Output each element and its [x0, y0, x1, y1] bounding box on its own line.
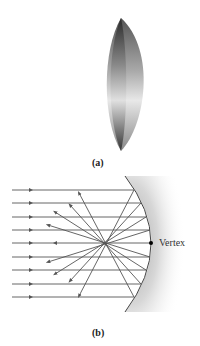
vertex-dot: [149, 241, 153, 245]
vertex-label: Vertex: [159, 237, 185, 248]
incoming-rays: [12, 190, 151, 297]
mirror-segment-illustration: [107, 18, 144, 151]
incoming-ray-arrows: [29, 188, 57, 299]
reflected-rays: [48, 190, 150, 297]
panel-b-label: (b): [92, 327, 104, 338]
figure-canvas: [0, 0, 200, 346]
panel-a-label: (a): [92, 157, 104, 168]
